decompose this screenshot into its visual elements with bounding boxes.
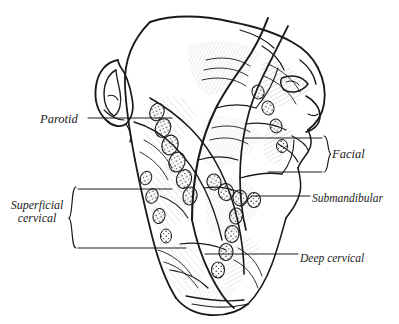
label-superficial-cervical: Superficial cervical bbox=[4, 199, 70, 226]
head-neck-dissection-drawing bbox=[0, 0, 399, 324]
superficial-cervical-brace bbox=[69, 187, 76, 248]
label-submandibular: Submandibular bbox=[312, 192, 383, 205]
label-deep-cervical: Deep cervical bbox=[300, 252, 364, 265]
label-superficial-cervical-line1: Superficial bbox=[4, 199, 70, 212]
label-superficial-cervical-line2: cervical bbox=[4, 212, 70, 225]
label-facial: Facial bbox=[332, 147, 365, 161]
anatomical-figure: Parotid Facial Submandibular Deep cervic… bbox=[0, 0, 399, 324]
facial-brace bbox=[324, 136, 331, 172]
label-parotid: Parotid bbox=[40, 112, 78, 126]
